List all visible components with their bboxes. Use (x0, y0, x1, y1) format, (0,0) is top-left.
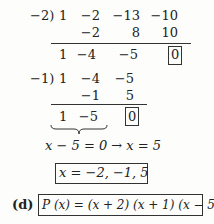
d2-remainder: 0 (128, 110, 136, 124)
d1-r1-c3: −13 (112, 9, 140, 23)
d1-remainder: 0 (171, 48, 179, 62)
d2-r2-c2: −1 (78, 89, 100, 103)
d2-r3-c2: −5 (76, 110, 98, 124)
d1-r2-c4: 10 (150, 26, 178, 40)
divisor-1: −2) (30, 9, 54, 23)
d2-r1-c3: −5 (110, 72, 134, 86)
d1-r1-c4: −10 (150, 9, 178, 23)
divisor-2: −1) (30, 72, 54, 86)
linear-equation: x − 5 = 0 → x = 5 (45, 139, 161, 153)
d2-r1-c1: 1 (59, 72, 67, 86)
d1-r3-c2: −4 (74, 48, 96, 62)
d1-r2-c3: 8 (112, 26, 140, 40)
part-label: (d) (12, 198, 33, 212)
d2-divider-line (51, 104, 147, 105)
d1-r1-c2: −2 (78, 9, 100, 23)
d1-r3-c3: −5 (110, 48, 138, 62)
roots: x = −2, −1, 5 (59, 166, 149, 180)
underbrace-icon (50, 124, 108, 136)
d2-r2-c3: 5 (110, 89, 134, 103)
d1-r3-c1: 1 (59, 48, 67, 62)
d2-r1-c2: −4 (78, 72, 100, 86)
d1-r1-c1: 1 (59, 9, 67, 23)
d2-r3-c1: 1 (59, 110, 67, 124)
factored-polynomial: P (x) = (x + 2) (x + 1) (x − 5) (42, 198, 214, 212)
d1-r2-c2: −2 (78, 26, 100, 40)
d1-divider-line (51, 43, 191, 44)
